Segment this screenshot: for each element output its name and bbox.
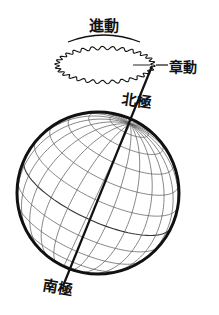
precession-label: 進動: [89, 17, 119, 35]
nutation-label: 章動: [169, 59, 197, 75]
background: [0, 0, 219, 315]
precession-nutation-diagram: 進動 章動 北極 南極: [0, 0, 219, 315]
